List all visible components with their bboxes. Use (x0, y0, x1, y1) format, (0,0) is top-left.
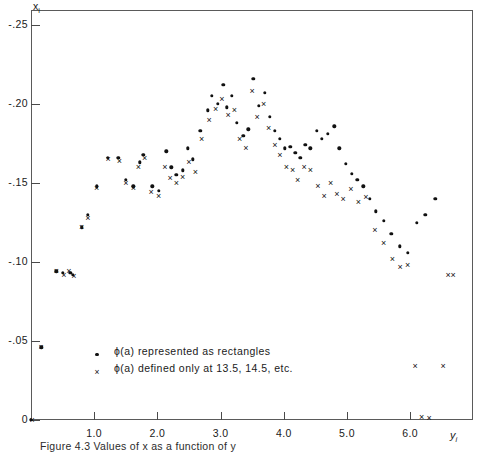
data-point-cross: × (243, 144, 248, 153)
data-point-cross: × (266, 123, 271, 132)
x-tick-mark (410, 412, 411, 420)
y-tick-label: -.25 (2, 18, 28, 30)
x-tick-mark (157, 412, 158, 420)
legend-entry-cross-label: ϕ(a) defined only at 13.5, 14.5, etc. (114, 362, 293, 374)
figure-caption: Figure 4.3 Values of x as a function of … (40, 440, 236, 452)
data-point-cross: × (356, 197, 361, 206)
data-point-cross: × (261, 100, 266, 109)
x-tick-label: 5.0 (333, 427, 361, 439)
legend-dot-icon (92, 348, 102, 360)
data-point-cross: × (413, 362, 418, 371)
x-tick-label: 1.0 (80, 427, 108, 439)
data-point-cross: × (167, 174, 172, 183)
data-point-cross: × (94, 183, 99, 192)
legend-entry-dot-label: ϕ(a) represented as rectangles (114, 345, 271, 357)
data-point-cross: × (405, 261, 410, 270)
data-point-cross: × (193, 167, 198, 176)
data-point-cross: × (131, 183, 136, 192)
data-point-cross: × (162, 163, 167, 172)
data-point-cross: × (284, 163, 289, 172)
data-point-cross: × (348, 185, 353, 194)
x-axis-label: yi (450, 429, 457, 444)
data-point-cross: × (199, 134, 204, 143)
data-point-cross: × (79, 223, 84, 232)
data-point-cross: × (117, 156, 122, 165)
data-point-cross: × (308, 166, 313, 175)
y-axis-label: xi (33, 0, 40, 15)
data-point-cross: × (207, 115, 212, 124)
x-tick-mark (284, 412, 285, 420)
y-tick-label: -.20 (2, 97, 28, 109)
x-tick-mark (347, 412, 348, 420)
data-point-cross: × (250, 87, 255, 96)
data-point-cross: × (427, 414, 432, 423)
data-point-cross: × (322, 191, 327, 200)
data-point-cross: × (156, 191, 161, 200)
y-tick-mark (31, 262, 40, 263)
data-point-cross: × (301, 163, 306, 172)
data-point-cross: × (136, 163, 141, 172)
data-point-cross: × (295, 175, 300, 184)
x-axis-label-sub: i (456, 435, 458, 444)
data-point-cross: × (451, 270, 456, 279)
data-point-cross: × (148, 188, 153, 197)
data-point-cross: × (174, 179, 179, 188)
x-tick-label: 4.0 (270, 427, 298, 439)
data-point-cross: × (186, 158, 191, 167)
data-point-cross: × (341, 194, 346, 203)
data-point-cross: × (180, 172, 185, 181)
data-point-cross: × (419, 412, 424, 421)
data-point-cross: × (381, 239, 386, 248)
data-point-cross: × (30, 416, 35, 425)
y-tick-label: -.05 (2, 334, 28, 346)
data-point-cross: × (219, 95, 224, 104)
data-point-cross: × (390, 254, 395, 263)
data-point-cross: × (363, 193, 368, 202)
data-point-cross: × (142, 153, 147, 162)
x-tick-mark (221, 412, 222, 420)
data-point-cross: × (226, 111, 231, 120)
data-point-cross: × (237, 134, 242, 143)
data-point-cross: × (38, 343, 43, 352)
data-point-cross: × (213, 104, 218, 113)
y-axis-label-sub: i (38, 6, 40, 15)
x-tick-label: 6.0 (396, 427, 424, 439)
y-tick-mark (31, 183, 40, 184)
data-point-cross: × (334, 190, 339, 199)
legend-cross-icon: × (92, 365, 102, 377)
y-tick-label: -.10 (2, 255, 28, 267)
x-tick-label: 2.0 (143, 427, 171, 439)
data-point-cross: × (71, 272, 76, 281)
data-point-cross: × (372, 226, 377, 235)
y-tick-mark (31, 25, 40, 26)
data-point-cross: × (85, 213, 90, 222)
y-tick-mark (31, 104, 40, 105)
data-point-cross: × (105, 155, 110, 164)
data-point-cross: × (123, 179, 128, 188)
y-tick-label: 0 (2, 413, 28, 425)
data-point-cross: × (255, 112, 260, 121)
data-point-cross: × (440, 362, 445, 371)
x-tick-label: 3.0 (207, 427, 235, 439)
data-point-cross: × (277, 150, 282, 159)
data-point-cross: × (397, 262, 402, 271)
data-point-cross: × (232, 106, 237, 115)
data-point-cross: × (315, 182, 320, 191)
data-point-cross: × (328, 179, 333, 188)
y-tick-label: -.15 (2, 176, 28, 188)
data-point-cross: × (54, 267, 59, 276)
x-tick-mark (94, 412, 95, 420)
